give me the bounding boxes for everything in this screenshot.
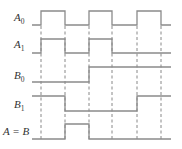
label-a1: A1	[13, 38, 25, 53]
dashed-time-guides	[41, 26, 161, 141]
waveform-b1	[32, 96, 171, 111]
timing-diagram: A0A1B0B1A = B	[0, 0, 182, 149]
waveform-a0	[32, 11, 171, 25]
waveforms	[32, 11, 171, 139]
label-b1: B1	[14, 98, 25, 113]
waveform-a1	[32, 39, 171, 53]
label-aeqb: A = B	[2, 125, 29, 137]
signal-labels: A0A1B0B1A = B	[2, 11, 29, 137]
label-a0: A0	[13, 11, 25, 26]
waveform-aeqb	[32, 124, 171, 139]
label-b0: B0	[14, 69, 25, 84]
waveform-b0	[32, 67, 171, 82]
